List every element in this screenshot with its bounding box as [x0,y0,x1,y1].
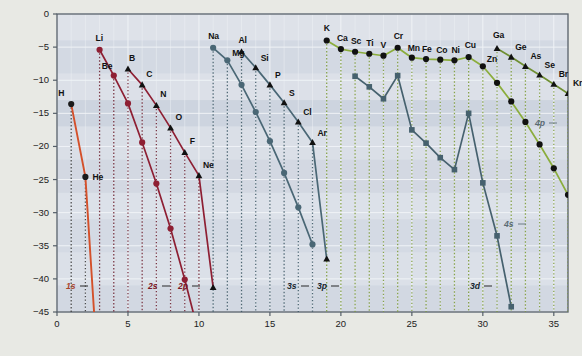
element-label-ne: Ne [203,160,214,170]
orbital-annotation-3d: 3d [470,281,480,291]
x-tick-label: 0 [42,318,72,329]
element-label-n: N [160,89,166,99]
y-tick-label: −35 [7,240,49,251]
element-label-cu: Cu [465,40,476,50]
element-label-b: B [129,53,135,63]
element-label-o: O [176,112,183,122]
element-label-he: He [92,172,103,182]
y-tick-label: −40 [7,273,49,284]
x-tick-label: 5 [113,318,143,329]
element-label-mn: Mn [408,43,420,53]
element-label-kr: Kr [573,78,582,88]
x-tick-label: 30 [468,318,498,329]
element-label-c: C [146,69,152,79]
y-tick-label: −30 [7,207,49,218]
element-label-zn: Zn [487,54,497,64]
element-label-ni: Ni [451,45,459,55]
element-label-ga: Ga [493,30,504,40]
y-tick-label: 0 [7,8,49,19]
element-label-ti: Ti [366,38,373,48]
element-label-s: S [289,88,295,98]
element-label-v: V [380,40,386,50]
y-tick-label: −20 [7,140,49,151]
element-label-ge: Ge [515,42,526,52]
element-label-cl: Cl [303,107,311,117]
x-tick-label: 10 [184,318,214,329]
element-label-si: Si [261,53,269,63]
element-label-fe: Fe [422,44,432,54]
orbital-annotation-1s: 1s [66,281,76,291]
y-tick-label: −5 [7,41,49,52]
element-label-li: Li [96,33,103,43]
y-tick-label: −15 [7,107,49,118]
orbital-annotation-2p: 2p [178,281,188,291]
element-label-p: P [275,70,281,80]
element-label-co: Co [436,45,447,55]
element-label-be: Be [102,61,113,71]
element-label-na: Na [208,31,219,41]
element-label-se: Se [545,60,555,70]
orbital-annotation-3s: 3s [287,281,297,291]
element-label-sc: Sc [351,36,361,46]
element-label-ca: Ca [337,33,348,43]
x-tick-label: 20 [326,318,356,329]
orbital-annotation-4p: 4p [535,118,545,128]
element-label-ar: Ar [318,128,327,138]
element-label-br: Br [559,69,568,79]
element-label-k: K [324,23,330,33]
x-tick-label: 35 [539,318,569,329]
x-tick-label: 15 [255,318,285,329]
orbital-annotation-3p: 3p [317,281,327,291]
orbital-annotation-2s: 2s [148,281,158,291]
element-label-mg: Mg [232,48,244,58]
element-label-cr: Cr [394,31,403,41]
element-label-as: As [530,51,541,61]
element-label-h: H [58,88,64,98]
element-label-al: Al [239,35,247,45]
y-tick-label: −10 [7,74,49,85]
element-label-f: F [190,136,195,146]
y-tick-label: −45 [7,306,49,317]
x-tick-label: 25 [397,318,427,329]
y-tick-label: −25 [7,174,49,185]
orbital-annotation-4s: 4s [504,219,514,229]
